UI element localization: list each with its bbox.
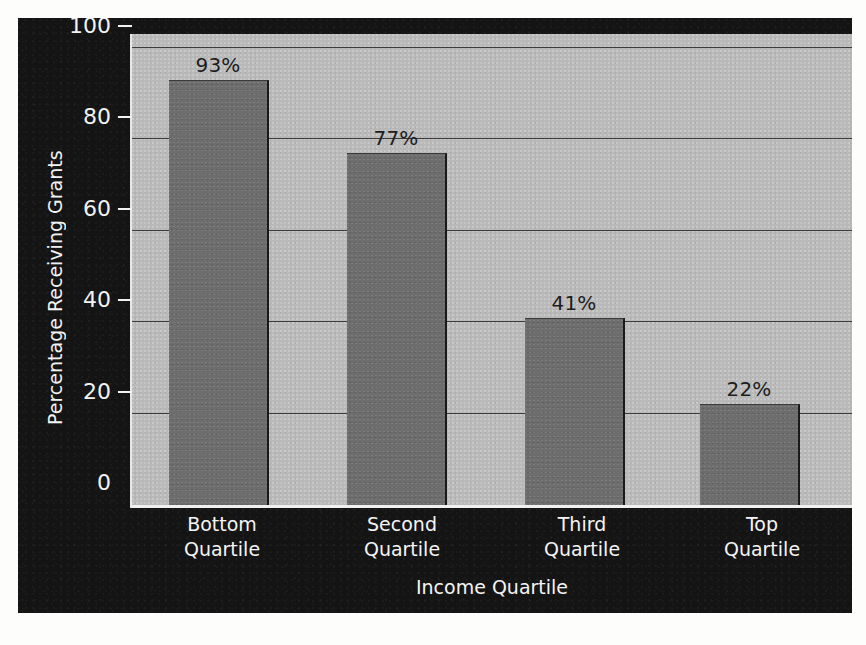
x-tick-bottom-quartile: Bottom Quartile [132,512,312,562]
y-tick-label-0: 0 [97,472,111,494]
bar-value-label-top-quartile: 22% [726,377,771,401]
bar-value-label-second-quartile: 77% [373,126,418,150]
x-tick-second-quartile: Second Quartile [312,512,492,562]
y-tick-0: 0 [97,472,132,494]
x-axis-baseline [132,505,852,508]
x-tick-bottom-quartile-line1: Bottom [132,512,312,537]
x-tick-top-quartile-line1: Top [672,512,852,537]
x-tick-bottom-quartile-line2: Quartile [132,537,312,562]
x-tick-third-quartile-line1: Third [492,512,672,537]
y-tick-label-60: 60 [83,198,111,220]
x-axis-tick-labels: Bottom Quartile Second Quartile Third Qu… [132,512,852,562]
y-tick-label-80: 80 [83,106,111,128]
y-tick-100: 100 [69,18,132,37]
bar-bottom-quartile[interactable]: 93% [169,80,269,505]
x-tick-third-quartile: Third Quartile [492,512,672,562]
x-tick-second-quartile-line1: Second [312,512,492,537]
chart-panel: Percentage Receiving Grants 0 20 [18,18,852,613]
bar-value-label-third-quartile: 41% [551,291,596,315]
y-tick-80: 80 [83,106,132,128]
figure-canvas: Percentage Receiving Grants 0 20 [0,0,866,645]
y-tick-label-20: 20 [83,381,111,403]
y-tick-label-40: 40 [83,289,111,311]
bar-third-quartile[interactable]: 41% [525,318,625,505]
bar-top-quartile[interactable]: 22% [700,404,800,505]
y-tick-mark-60 [118,208,132,210]
bar-value-label-bottom-quartile: 93% [195,53,240,77]
x-tick-top-quartile: Top Quartile [672,512,852,562]
y-tick-mark-40 [118,299,132,301]
y-tick-mark-20 [118,391,132,393]
x-axis-title: Income Quartile [132,576,852,598]
gridline-100 [132,47,852,48]
y-tick-label-100: 100 [69,18,111,37]
y-tick-mark-100 [118,25,132,27]
y-tick-mark-80 [118,116,132,118]
x-tick-second-quartile-line2: Quartile [312,537,492,562]
x-tick-third-quartile-line2: Quartile [492,537,672,562]
y-axis-title: Percentage Receiving Grants [40,52,70,523]
y-tick-20: 20 [83,381,132,403]
y-tick-40: 40 [83,289,132,311]
plot-area: 0 20 40 60 80 [132,34,852,505]
x-tick-top-quartile-line2: Quartile [672,537,852,562]
bar-second-quartile[interactable]: 77% [347,153,447,505]
y-tick-60: 60 [83,198,132,220]
plot-coordinate-box: 0 20 40 60 80 [132,48,852,505]
